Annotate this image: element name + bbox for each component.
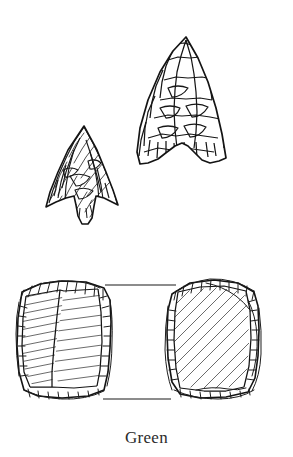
left-scraper bbox=[10, 281, 112, 399]
artifact-illustration bbox=[0, 0, 293, 457]
figure-plate: Green bbox=[0, 0, 293, 457]
figure-caption: Green bbox=[0, 428, 293, 448]
right-scraper bbox=[160, 279, 266, 402]
